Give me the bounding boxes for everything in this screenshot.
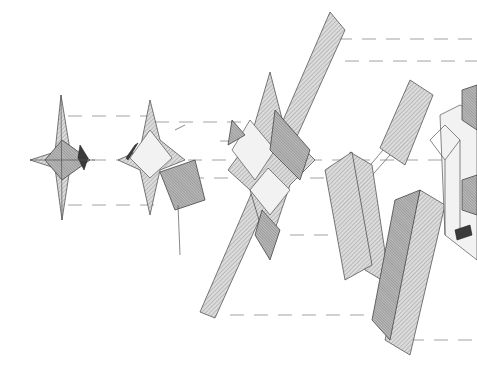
pavilion-roof-small <box>30 95 95 220</box>
pavilion-multi-eave <box>200 12 345 318</box>
exploded-axonometric-drawing <box>0 0 477 377</box>
pavilion-roof-framed <box>118 100 205 255</box>
roof-wings <box>325 80 445 355</box>
